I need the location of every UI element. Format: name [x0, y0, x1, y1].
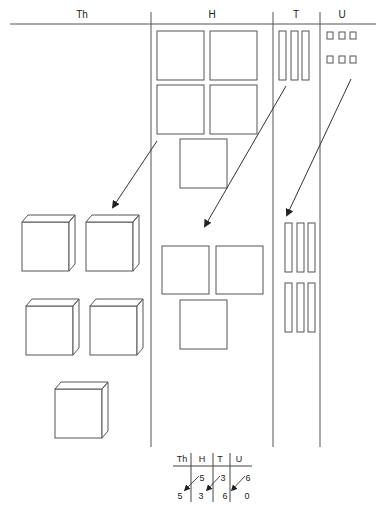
summary-header-h: H — [199, 454, 206, 464]
unit-cube — [327, 56, 333, 63]
ten-rod — [297, 223, 304, 272]
thousand-cube — [86, 215, 139, 271]
summary-top-u: 6 — [245, 473, 250, 483]
hundred-flat — [157, 31, 204, 80]
summary-bottom-th: 5 — [177, 491, 182, 501]
summary-header-u: U — [236, 454, 243, 464]
summary-table: Th H T U 5 3 6 5 3 6 0 — [173, 453, 252, 502]
summary-top-h: 5 — [199, 473, 204, 483]
hundreds-result — [162, 246, 263, 349]
thousand-cube — [26, 299, 79, 355]
unit-cube — [350, 32, 356, 39]
header-units: U — [338, 9, 345, 20]
tens-initial — [279, 31, 309, 80]
summary-header-t: T — [217, 454, 223, 464]
units-initial — [327, 32, 356, 63]
summary-bottom-h: 3 — [198, 491, 203, 501]
summary-bottom-u: 0 — [244, 491, 249, 501]
hundreds-initial — [157, 31, 257, 188]
ten-rod — [291, 31, 298, 80]
carry-arrow-u-to-t — [232, 476, 245, 490]
ten-rod — [302, 31, 309, 80]
hundred-flat — [162, 246, 209, 294]
hundred-flat — [157, 85, 204, 134]
tens-result — [285, 223, 315, 332]
ten-rod — [308, 223, 315, 272]
regroup-arrow-u-to-t — [287, 79, 351, 215]
unit-cube — [327, 32, 333, 39]
carry-arrow-h-to-th — [185, 476, 199, 490]
hundred-flat — [210, 85, 257, 134]
regroup-arrow-h-to-th — [113, 141, 157, 207]
hundred-flat — [180, 300, 227, 349]
unit-cube — [339, 32, 345, 39]
place-value-diagram: Th H T U — [0, 0, 389, 519]
unit-cube — [339, 56, 345, 63]
thousands-result — [22, 215, 143, 438]
regroup-arrow-t-to-h — [205, 86, 286, 226]
ten-rod — [285, 283, 292, 332]
summary-header-th: Th — [177, 454, 188, 464]
hundred-flat — [180, 139, 227, 188]
header-hundreds: H — [208, 9, 215, 20]
unit-cube — [350, 56, 356, 63]
hundred-flat — [210, 31, 257, 80]
header-tens: T — [293, 9, 299, 20]
thousand-cube — [22, 215, 75, 271]
ten-rod — [297, 283, 304, 332]
ten-rod — [308, 283, 315, 332]
summary-top-t: 3 — [220, 473, 225, 483]
header-thousands: Th — [76, 9, 88, 20]
summary-bottom-t: 6 — [222, 491, 227, 501]
thousand-cube — [90, 299, 143, 355]
ten-rod — [285, 223, 292, 272]
ten-rod — [279, 31, 286, 80]
thousand-cube — [55, 382, 108, 438]
hundred-flat — [216, 246, 263, 294]
